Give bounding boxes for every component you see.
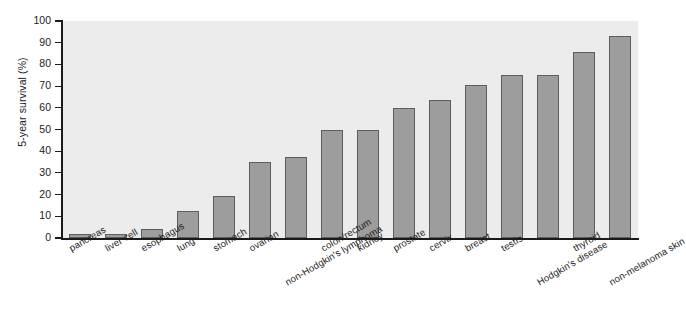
- bar: [249, 162, 271, 238]
- y-axis-tick-label: 60: [25, 102, 51, 113]
- y-axis-tick: [55, 20, 61, 21]
- y-axis-tick-label: 100: [25, 15, 51, 26]
- y-axis-tick: [55, 129, 61, 130]
- bar-series: [62, 21, 638, 238]
- y-axis-tick-label: 30: [25, 167, 51, 178]
- bar: [285, 157, 307, 238]
- x-axis-labels: pancreasliver cellesophaguslungstomachov…: [0, 238, 648, 330]
- y-axis-tick-label: 80: [25, 58, 51, 69]
- y-axis-tick: [55, 194, 61, 195]
- bar: [321, 130, 343, 239]
- x-axis-label: non-melanoma skin: [607, 235, 686, 287]
- y-axis-tick: [55, 86, 61, 87]
- y-axis-tick-label: 50: [25, 124, 51, 135]
- y-axis-tick-label: 70: [25, 80, 51, 91]
- y-axis-tick-label: 90: [25, 37, 51, 48]
- y-axis-tick: [55, 172, 61, 173]
- bar: [573, 52, 595, 238]
- y-axis-tick: [55, 42, 61, 43]
- bar: [609, 36, 631, 238]
- y-axis-tick: [55, 216, 61, 217]
- x-axis-label: lung: [175, 235, 197, 254]
- bar: [429, 100, 451, 238]
- bar: [393, 108, 415, 238]
- bar: [537, 75, 559, 238]
- y-axis-tick-label: 40: [25, 145, 51, 156]
- bar: [465, 85, 487, 238]
- y-axis-tick-label: 10: [25, 210, 51, 221]
- y-axis-tick: [55, 151, 61, 152]
- y-axis-tick: [55, 107, 61, 108]
- y-axis-tick-label: 20: [25, 189, 51, 200]
- y-axis-tick: [55, 64, 61, 65]
- bar: [501, 75, 523, 238]
